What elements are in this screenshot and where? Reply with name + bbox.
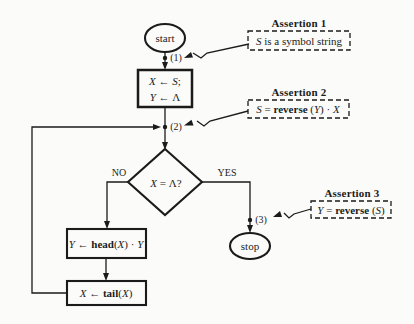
arrowhead-into-head-box bbox=[104, 221, 110, 229]
assertion-2-zigzag-arrow bbox=[197, 111, 248, 126]
point-3-dot bbox=[248, 218, 252, 222]
yes-branch-label: YES bbox=[218, 168, 237, 178]
no-branch-label: NO bbox=[112, 168, 126, 178]
stop-terminal-label: stop bbox=[241, 241, 259, 252]
point-3-label: (3) bbox=[255, 215, 267, 225]
assertion-3-text: Y = reverse (S) bbox=[317, 205, 384, 216]
arrowhead-into-tail-box bbox=[103, 273, 109, 281]
assertion-2-title: Assertion 2 bbox=[271, 87, 326, 98]
assertion-3-zigzag-arrow bbox=[284, 209, 311, 218]
assertion-1-zigzag-arrow bbox=[193, 44, 249, 58]
assertion-3-title: Assertion 3 bbox=[324, 188, 379, 199]
assertion-2-arrowhead bbox=[184, 120, 194, 126]
assertion-1-text: S is a symbol string bbox=[256, 36, 342, 47]
assertion-3-arrowhead bbox=[273, 211, 282, 217]
init-box-line2: Y ← Λ bbox=[150, 92, 181, 103]
edge-no-branch bbox=[107, 182, 128, 221]
arrowhead-into-stop bbox=[247, 225, 253, 233]
assertion-2-text: S = reverse (Y) · X bbox=[256, 104, 339, 115]
arrowhead-loop-into-point-2 bbox=[153, 124, 161, 130]
edge-loop-back bbox=[32, 127, 153, 293]
init-box-line1: X ← S; bbox=[149, 76, 181, 87]
head-box-label: Y ← head(X) · Y bbox=[69, 239, 144, 250]
flowchart-figure: start (1) X ← S; Y ← Λ (2) X = Λ? NO YES… bbox=[0, 0, 414, 324]
tail-box-label: X ← tail(X) bbox=[80, 288, 133, 299]
point-2-label: (2) bbox=[170, 122, 182, 132]
point-1-label: (1) bbox=[170, 53, 182, 63]
start-terminal-label: start bbox=[156, 33, 175, 44]
decision-label: X = Λ? bbox=[150, 178, 181, 189]
flowchart-shapes bbox=[0, 0, 414, 324]
assertion-1-title: Assertion 1 bbox=[271, 18, 326, 29]
point-1-dot bbox=[163, 56, 167, 60]
point-2-dot bbox=[163, 125, 167, 129]
edge-yes-branch bbox=[202, 182, 250, 218]
assertion-1-arrowhead bbox=[184, 52, 193, 58]
